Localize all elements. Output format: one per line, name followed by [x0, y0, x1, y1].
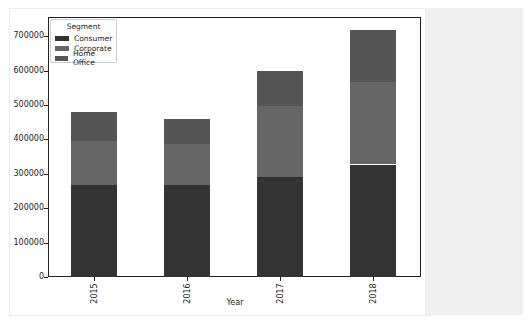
x-tick-label: 2018	[369, 279, 378, 309]
bar-segment-consumer	[164, 185, 210, 277]
legend-label: Home Office	[73, 49, 116, 67]
bar-segment-home-office	[257, 71, 303, 106]
legend-item-home-office: Home Office	[55, 53, 116, 63]
bar-segment-consumer	[257, 177, 303, 277]
legend-swatch-consumer	[55, 36, 69, 41]
bar-segment-corporate	[350, 82, 396, 164]
x-tick-label: 2017	[276, 279, 285, 309]
y-tick-label: 600000	[0, 66, 44, 75]
legend: Segment Consumer Corporate Home Office	[50, 19, 117, 63]
bar-segment-home-office	[164, 119, 210, 143]
bar-segment-home-office	[350, 30, 396, 82]
x-tick-label: 2016	[183, 279, 192, 309]
y-tick-label: 300000	[0, 169, 44, 178]
x-tick-label: 2015	[90, 279, 99, 309]
legend-label: Consumer	[74, 34, 112, 43]
bar-segment-consumer	[71, 185, 117, 277]
bar-segment-corporate	[71, 141, 117, 185]
bar-2016	[164, 18, 210, 276]
bar-segment-corporate	[164, 144, 210, 186]
y-tick-label: 200000	[0, 203, 44, 212]
y-tick-label: 700000	[0, 31, 44, 40]
legend-swatch-corporate	[55, 46, 69, 51]
bar-2018	[350, 18, 396, 276]
y-tick-label: 100000	[0, 238, 44, 247]
y-tick-label: 500000	[0, 100, 44, 109]
x-axis-label: Year	[220, 298, 250, 307]
legend-item-consumer: Consumer	[55, 33, 112, 43]
bar-2017	[257, 18, 303, 276]
side-panel	[425, 8, 523, 315]
y-tick-label: 0	[0, 272, 44, 281]
y-tick-mark	[44, 277, 48, 278]
bar-segment-corporate	[257, 106, 303, 177]
legend-title: Segment	[51, 22, 116, 31]
bar-segment-home-office	[71, 112, 117, 141]
bar-segment-consumer	[350, 165, 396, 277]
legend-swatch-home-office	[55, 56, 68, 61]
y-tick-label: 400000	[0, 134, 44, 143]
